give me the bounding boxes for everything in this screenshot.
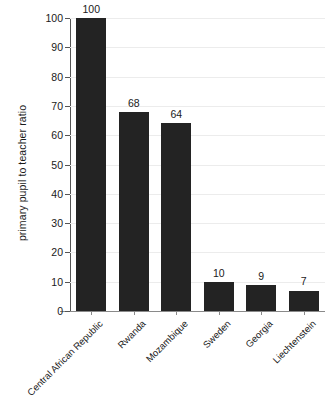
gridline — [70, 223, 325, 224]
bar-value-label: 10 — [213, 267, 225, 279]
y-tick-label: 100 — [45, 12, 63, 24]
y-tick-label: 10 — [51, 276, 63, 288]
y-tick-mark — [65, 252, 70, 253]
y-tick-label: 60 — [51, 129, 63, 141]
bar-value-label: 64 — [170, 108, 182, 120]
y-tick-mark — [65, 311, 70, 312]
x-tick-mark — [261, 311, 262, 315]
gridline — [70, 194, 325, 195]
x-tick-label-text: Rwanda — [115, 318, 147, 350]
y-tick-label: 20 — [51, 246, 63, 258]
gridline — [70, 47, 325, 48]
y-tick-label: 70 — [51, 100, 63, 112]
gridline — [70, 77, 325, 78]
y-tick-mark — [65, 18, 70, 19]
y-tick-mark — [65, 106, 70, 107]
x-tick-label-text: Liechtenstein — [270, 318, 317, 365]
x-tick-label-text: Central African Republic — [25, 318, 105, 398]
gridline — [70, 18, 325, 19]
x-tick-label-text: Mozambique — [144, 318, 190, 364]
y-tick-mark — [65, 223, 70, 224]
gridline — [70, 106, 325, 107]
plot-area: 0102030405060708090100 10068641097 — [70, 18, 325, 311]
bar-chart: primary pupil to teacher ratio 010203040… — [0, 0, 334, 411]
x-tick-mark — [219, 311, 220, 315]
y-tick-mark — [65, 47, 70, 48]
bar-value-label: 9 — [258, 270, 264, 282]
bar — [161, 123, 191, 311]
gridline — [70, 282, 325, 283]
x-tick-mark — [91, 311, 92, 315]
y-tick-label: 90 — [51, 41, 63, 53]
x-tick-mark — [176, 311, 177, 315]
y-tick-label: 80 — [51, 71, 63, 83]
x-tick-mark — [134, 311, 135, 315]
gridline — [70, 252, 325, 253]
y-tick-label: 0 — [57, 305, 63, 317]
y-tick-label: 50 — [51, 159, 63, 171]
gridline — [70, 135, 325, 136]
y-tick-label: 30 — [51, 217, 63, 229]
bar — [76, 18, 106, 311]
y-axis-title: primary pupil to teacher ratio — [16, 88, 30, 258]
y-tick-mark — [65, 77, 70, 78]
y-tick-mark — [65, 165, 70, 166]
bar-value-label: 7 — [301, 275, 307, 287]
gridline — [70, 165, 325, 166]
x-tick-label-text: Georgia — [243, 318, 275, 350]
y-tick-label: 40 — [51, 188, 63, 200]
y-tick-mark — [65, 282, 70, 283]
x-tick-mark — [304, 311, 305, 315]
x-tick-label-text: Sweden — [200, 318, 232, 350]
bar-value-label: 68 — [128, 97, 140, 109]
bar-value-label: 100 — [82, 3, 100, 15]
y-tick-mark — [65, 194, 70, 195]
y-tick-mark — [65, 135, 70, 136]
